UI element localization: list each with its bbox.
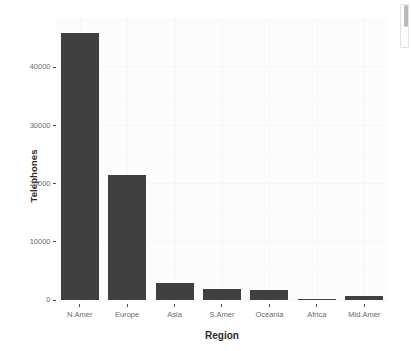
x-tick: S.Amer <box>198 302 245 319</box>
bar-africa <box>298 299 336 300</box>
bar-s-amer <box>203 289 241 300</box>
x-tick: N.Amer <box>56 302 103 319</box>
x-tick-label: Mid.Amer <box>341 310 388 319</box>
x-tick-mark <box>316 304 317 307</box>
x-tick-mark <box>269 304 270 307</box>
y-tick-mark <box>53 125 56 126</box>
x-tick: Africa <box>293 302 340 319</box>
scrollbar-thumb[interactable] <box>404 5 408 27</box>
x-tick-mark <box>221 304 222 307</box>
x-tick-mark <box>79 304 80 307</box>
y-tick: 10000 <box>30 237 56 247</box>
bar-oceania <box>250 290 288 300</box>
bar-n-amer <box>61 33 99 300</box>
y-tick-mark <box>53 300 56 301</box>
y-tick-mark <box>53 67 56 68</box>
y-tick-mark <box>53 183 56 184</box>
x-tick: Europe <box>103 302 150 319</box>
y-tick-label: 0 <box>46 295 50 305</box>
x-tick: Asia <box>151 302 198 319</box>
y-tick: 30000 <box>30 121 56 131</box>
y-tick: 20000 <box>30 179 56 189</box>
y-tick-label: 40000 <box>30 62 51 72</box>
y-tick: 0 <box>46 295 56 305</box>
x-tick-label: Africa <box>293 310 340 319</box>
x-tick-label: Oceania <box>246 310 293 319</box>
x-axis-ticks: N.AmerEuropeAsiaS.AmerOceaniaAfricaMid.A… <box>56 302 388 328</box>
x-tick-label: S.Amer <box>198 310 245 319</box>
x-tick-label: Europe <box>103 310 150 319</box>
y-tick-label: 30000 <box>30 121 51 131</box>
x-tick-mark <box>174 304 175 307</box>
y-tick-label: 10000 <box>30 237 51 247</box>
y-tick: 40000 <box>30 62 56 72</box>
bar-chart: Telephones 010000200003000040000 N.AmerE… <box>0 0 411 351</box>
x-tick-label: Asia <box>151 310 198 319</box>
x-tick: Mid.Amer <box>341 302 388 319</box>
bar-series <box>56 18 388 302</box>
y-tick-label: 20000 <box>30 179 51 189</box>
x-tick-mark <box>364 304 365 307</box>
bar-europe <box>108 175 146 300</box>
x-axis-title: Region <box>56 330 388 341</box>
x-tick-label: N.Amer <box>56 310 103 319</box>
x-tick-mark <box>127 304 128 307</box>
bar-asia <box>156 283 194 300</box>
bar-mid-amer <box>345 296 383 300</box>
y-axis-ticks: 010000200003000040000 <box>0 0 56 351</box>
x-tick: Oceania <box>246 302 293 319</box>
plot-panel <box>56 18 388 302</box>
y-tick-mark <box>53 241 56 242</box>
